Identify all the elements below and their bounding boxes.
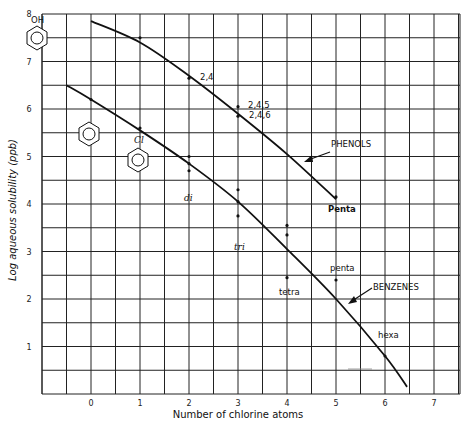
phenols-label: PHENOLS bbox=[331, 139, 371, 149]
data-point bbox=[383, 354, 386, 357]
label-2-4: 2,4 bbox=[200, 72, 214, 82]
data-point bbox=[236, 214, 239, 217]
data-point bbox=[236, 200, 239, 203]
benzene-structure-icon bbox=[79, 122, 99, 146]
label-phenol-penta: Penta bbox=[328, 204, 356, 214]
y-tick-label: 2 bbox=[26, 295, 31, 304]
benzenes-label: BENZENES bbox=[373, 282, 419, 292]
cl-label: Cl bbox=[134, 135, 144, 145]
data-point bbox=[187, 155, 190, 158]
chlorobenzene-structure-icon: Cl bbox=[128, 135, 148, 172]
x-tick-label: 7 bbox=[431, 399, 436, 408]
x-tick-label: 5 bbox=[333, 399, 338, 408]
y-tick-label: 1 bbox=[26, 343, 31, 352]
x-tick-label: 1 bbox=[137, 399, 142, 408]
label-tri: tri bbox=[234, 242, 245, 252]
data-point bbox=[236, 105, 239, 108]
label-2-4-5: 2,4,5 bbox=[248, 100, 270, 110]
y-tick-label: 6 bbox=[26, 105, 31, 114]
x-axis-ticks: 01234567 bbox=[88, 399, 436, 408]
solubility-chart: 12345678 01234567 Number of chlorine ato… bbox=[0, 0, 467, 429]
x-tick-label: 6 bbox=[382, 399, 387, 408]
data-point bbox=[236, 188, 239, 191]
oh-label: OH bbox=[31, 15, 44, 25]
benzenes-arrowhead-icon bbox=[348, 296, 357, 304]
x-tick-label: 3 bbox=[235, 399, 240, 408]
data-point bbox=[187, 162, 190, 165]
y-axis-title: Log aqueous solubility (ppb) bbox=[7, 139, 18, 281]
y-tick-label: 4 bbox=[26, 200, 31, 209]
x-tick-label: 0 bbox=[88, 399, 93, 408]
data-point bbox=[285, 224, 288, 227]
label-di: di bbox=[184, 193, 193, 203]
x-axis-title: Number of chlorine atoms bbox=[173, 409, 304, 420]
y-tick-label: 3 bbox=[26, 248, 31, 257]
label-tetra: tetra bbox=[279, 287, 300, 297]
label-2-4-6: 2,4,6 bbox=[249, 110, 271, 120]
y-tick-label: 7 bbox=[26, 58, 31, 67]
x-tick-label: 4 bbox=[284, 399, 289, 408]
y-axis-ticks: 12345678 bbox=[26, 10, 31, 352]
data-point bbox=[236, 115, 239, 118]
label-hexa: hexa bbox=[378, 330, 399, 340]
data-point bbox=[334, 195, 337, 198]
data-point bbox=[187, 77, 190, 80]
data-point bbox=[334, 278, 337, 281]
data-point bbox=[89, 98, 92, 101]
data-point bbox=[187, 169, 190, 172]
data-point bbox=[285, 233, 288, 236]
label-benzene-penta: penta bbox=[330, 263, 355, 273]
x-tick-label: 2 bbox=[186, 399, 191, 408]
data-point bbox=[138, 126, 141, 129]
data-point bbox=[285, 276, 288, 279]
benzenes-curve bbox=[67, 85, 408, 387]
data-point bbox=[138, 36, 141, 39]
phenol-structure-icon: OH bbox=[27, 15, 47, 50]
y-tick-label: 5 bbox=[26, 153, 31, 162]
